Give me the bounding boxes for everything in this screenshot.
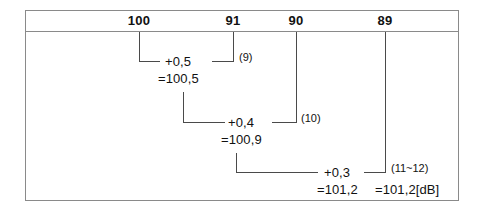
step-3-note: (11~12) [391,162,428,175]
connector-elbow-90 [272,122,297,123]
step-1-delta: +0,5 [165,54,191,69]
connector-drop-91 [233,32,234,61]
final-result: =101,2[dB] [375,182,439,197]
connector-elbow-89 [364,172,386,173]
connector-drop-89 [385,32,386,172]
connector-drop-sum-1005 [183,92,184,122]
connector-elbow-sum-1005 [183,122,225,123]
step-3-delta: +0,3 [324,165,350,180]
connector-drop-90 [296,32,297,122]
step-3-total: =101,2 [317,182,358,197]
header-value-90: 90 [266,12,326,29]
header-value-91: 91 [203,12,263,29]
connector-elbow-sum-1009 [236,172,318,173]
header-value-100: 100 [109,12,169,29]
header-value-89: 89 [355,12,415,29]
decibel-addition-diagram: 100 91 90 89 +0,5 =100,5 (9) +0,4 =100,9… [0,0,483,216]
step-1-note: (9) [239,51,252,64]
step-2-total: =100,9 [221,132,262,147]
connector-elbow-100 [139,61,160,62]
step-1-total: =100,5 [158,71,199,86]
step-2-note: (10) [301,112,321,125]
step-2-delta: +0,4 [228,115,254,130]
connector-drop-100 [139,32,140,61]
header-divider [25,31,459,32]
connector-drop-sum-1009 [236,153,237,172]
connector-elbow-91 [212,61,234,62]
